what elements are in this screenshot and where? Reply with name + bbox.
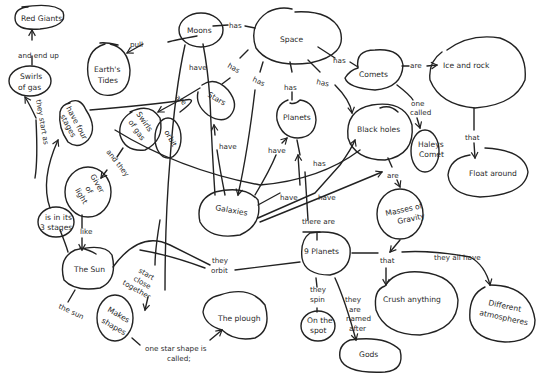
svg-text:Comets: Comets — [359, 70, 388, 79]
link-label-they-all-have: they all have — [434, 253, 481, 262]
svg-text:The plough: The plough — [217, 314, 261, 323]
node-stars[interactable]: Stars — [197, 81, 234, 119]
link-label-there-are: there are — [302, 217, 336, 226]
link-label-galaxies-have-3: have — [318, 193, 336, 202]
link-label-named-4: after — [349, 324, 366, 333]
svg-text:Haleys: Haleys — [418, 140, 444, 149]
node-have-four-stages[interactable]: have four stages — [58, 101, 92, 146]
node-float-around[interactable]: Float around — [448, 148, 528, 197]
svg-text:Tides: Tides — [97, 76, 118, 85]
node-crush-anything[interactable]: Crush anything — [375, 272, 458, 335]
svg-text:atmospheres: atmospheres — [479, 308, 529, 327]
link-label-space-has-blackholes: has — [316, 77, 331, 88]
node-earths-tides[interactable]: Earth's Tides — [88, 43, 130, 96]
node-the-plough[interactable]: The plough — [203, 292, 267, 339]
link-label-space-has-stars: has — [226, 61, 242, 75]
link-label-named-2: are — [349, 305, 361, 314]
link-label-orbit: orbit — [211, 266, 228, 275]
link-label-the-sun: the sun — [57, 302, 85, 322]
link-label-that: that — [380, 256, 395, 265]
svg-text:Earth's: Earth's — [94, 65, 120, 74]
node-is-in-its-3-stages[interactable]: is in its 3 stages — [38, 207, 74, 237]
node-galaxies[interactable]: Galaxies — [199, 190, 259, 236]
node-ice-and-rock[interactable]: Ice and rock — [430, 37, 526, 108]
svg-text:Comet: Comet — [419, 150, 444, 159]
link-label-named-3: named — [346, 314, 371, 323]
svg-text:3 stages: 3 stages — [40, 223, 72, 232]
svg-text:of gas: of gas — [18, 83, 41, 92]
concept-map: Space Moons Earth's Tides Red Giants Swi… — [0, 0, 540, 377]
svg-text:Gods: Gods — [359, 350, 378, 359]
link-label-planets-has: has — [313, 159, 326, 168]
link-label-moons-have: have — [189, 63, 207, 72]
node-giver-of-light[interactable]: Giver of light — [65, 167, 111, 217]
link-label-one-star-shape: one star shape is — [145, 344, 207, 353]
link-label-galaxies-have-1: have — [268, 146, 286, 155]
svg-text:On the: On the — [307, 316, 333, 325]
link-label-and-end-up: and end up — [18, 51, 59, 60]
node-masses-of-gravity[interactable]: Masses of Gravity — [377, 189, 426, 239]
link-label-moons-has: has — [229, 21, 242, 30]
link-label-pull: pull — [130, 40, 143, 49]
link-label-blackholes-are: are — [387, 171, 399, 180]
link-label-they-spin-1: they — [310, 285, 327, 294]
node-haleys-comet[interactable]: Haleys Comet — [411, 130, 444, 172]
svg-text:Crush anything: Crush anything — [383, 295, 441, 304]
node-swirls-of-gas-top[interactable]: Swirls of gas — [9, 66, 51, 96]
link-label-named-1: they — [345, 295, 362, 304]
svg-text:Galaxies: Galaxies — [215, 203, 249, 218]
node-planets[interactable]: Planets — [277, 100, 316, 138]
link-label-galaxies-have-2: have — [280, 193, 298, 202]
link-label-they: they — [212, 256, 229, 265]
node-moons[interactable]: Moons — [179, 13, 223, 47]
node-different-atmospheres[interactable]: Different atmospheres — [470, 285, 535, 342]
node-label: Moons — [187, 26, 212, 35]
link-label-they-spin-2: spin — [310, 295, 325, 304]
node-black-holes[interactable]: Black holes — [348, 104, 413, 160]
link-label-called: called; — [167, 354, 191, 363]
link-label-called: called — [410, 108, 431, 117]
node-gods[interactable]: Gods — [340, 339, 401, 372]
link-label-space-has-planets: has — [284, 83, 297, 92]
svg-text:9 Planets: 9 Planets — [304, 247, 339, 256]
node-comets[interactable]: Comets — [345, 50, 403, 90]
node-space[interactable]: Space — [254, 8, 342, 64]
link-label-ice-that: that — [465, 133, 480, 142]
link-label-space-has-galaxies: has — [251, 75, 267, 89]
svg-text:Float around: Float around — [469, 169, 517, 178]
svg-text:Planets: Planets — [283, 113, 311, 122]
svg-text:Stars: Stars — [206, 90, 227, 108]
link-label-one: one — [411, 99, 425, 108]
svg-text:spot: spot — [310, 326, 326, 335]
node-makes-shapes[interactable]: Makes shapes — [97, 295, 133, 341]
node-9-planets[interactable]: 9 Planets — [302, 232, 351, 275]
svg-text:is in its: is in its — [45, 213, 72, 222]
svg-text:Ice and rock: Ice and rock — [443, 61, 490, 70]
svg-text:orbit: orbit — [162, 129, 179, 149]
svg-text:Black holes: Black holes — [357, 125, 400, 134]
link-label-like: like — [80, 227, 93, 236]
node-label: Space — [280, 35, 303, 44]
node-red-giants[interactable]: Red Giants — [15, 5, 64, 29]
link-label-and-they: and they — [104, 148, 131, 179]
node-on-the-spot[interactable]: On the spot — [301, 311, 335, 341]
link-label-stars-have: have — [219, 142, 237, 151]
node-the-sun[interactable]: The Sun — [62, 247, 113, 289]
link-label-comets-are: are — [410, 61, 422, 70]
svg-text:The Sun: The Sun — [73, 265, 105, 274]
link-label-space-has-comets: has — [333, 56, 346, 65]
svg-text:Red Giants: Red Giants — [21, 14, 62, 23]
svg-text:Swirls: Swirls — [20, 72, 42, 81]
